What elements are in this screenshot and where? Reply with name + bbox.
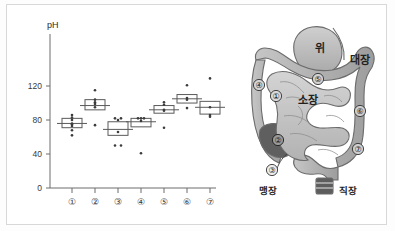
marker-3-label: ③ [268,166,275,175]
marker-6: ⑥ [354,105,365,116]
group-4 [126,117,156,154]
rectum-organ [316,178,333,194]
label-cecum: 맹장 [259,185,277,196]
group-6 [172,84,202,110]
x-tick-label-5: ⑤ [160,197,168,207]
label-rectum: 직장 [339,185,357,196]
group-1 [57,114,87,137]
x-tick-label-2: ② [91,197,99,207]
marker-5-label: ⑤ [314,75,321,84]
y-tick-label-0: 0 [37,183,42,193]
label-small-intestine: 소장 [298,93,318,107]
group-2 [80,89,110,126]
group-7 [195,77,225,118]
label-large-intestine: 대장 [350,53,370,67]
y-tick-label-80: 80 [33,115,43,125]
marker-4: ④ [253,79,264,90]
digestive-tract-diagram: ④ ① ② ③ ⑤ ⑥ ⑦ [232,12,390,217]
marker-1-label: ① [272,92,279,101]
x-tick-label-4: ④ [137,197,145,207]
x-axis-ticks [72,188,210,193]
marker-3: ③ [266,164,277,175]
marker-6-label: ⑥ [356,107,363,116]
marker-1: ① [270,90,281,101]
x-tick-label-7: ⑦ [206,197,214,207]
group-5 [149,101,179,129]
y-axis-title: pH [47,20,59,30]
x-tick-label-3: ③ [114,197,122,207]
x-tick-label-6: ⑥ [183,197,191,207]
ph-scatter-chart: 0 40 80 120 pH ① ② ③ ④ ⑤ ⑥ ⑦ [10,8,225,218]
marker-2-label: ② [274,136,281,145]
marker-2: ② [272,134,283,145]
y-tick-label-40: 40 [33,149,43,159]
marker-5: ⑤ [312,73,323,84]
figure-page: 0 40 80 120 pH ① ② ③ ④ ⑤ ⑥ ⑦ [0,0,395,231]
y-axis-ticks [46,86,50,188]
marker-7-label: ⑦ [354,145,361,154]
x-tick-label-1: ① [68,197,76,207]
marker-7: ⑦ [352,143,363,154]
y-tick-label-120: 120 [28,81,42,91]
marker-4-label: ④ [255,81,262,90]
label-stomach: 위 [315,42,325,55]
